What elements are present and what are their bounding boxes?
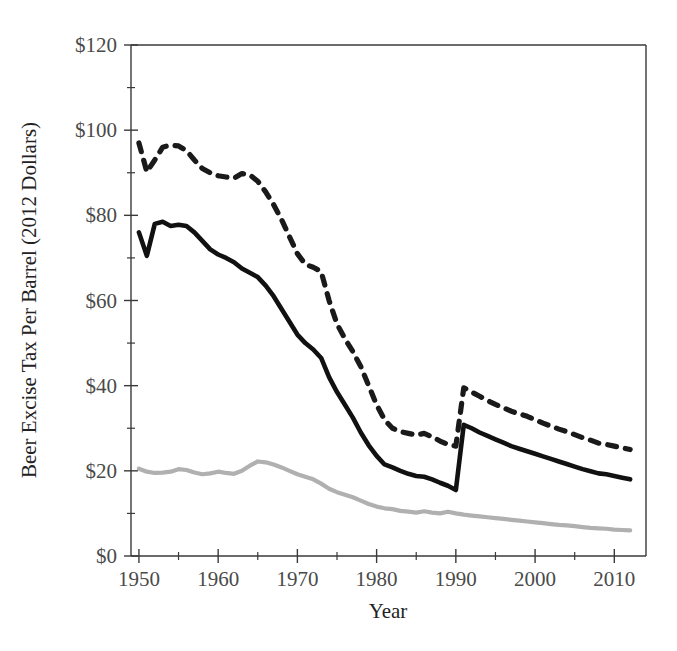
x-axis-title: Year xyxy=(369,599,408,623)
y-axis-title: Beer Excise Tax Per Barrel (2012 Dollars… xyxy=(17,122,41,478)
y-tick-label: $120 xyxy=(75,33,117,57)
chart-page: $0$20$40$60$80$100$120195019601970198019… xyxy=(0,0,677,651)
x-tick-label: 1990 xyxy=(435,567,477,591)
x-tick-label: 2010 xyxy=(593,567,635,591)
y-tick-label: $100 xyxy=(75,118,117,142)
y-tick-label: $0 xyxy=(96,544,117,568)
x-tick-label: 1970 xyxy=(276,567,318,591)
x-tick-label: 1980 xyxy=(356,567,398,591)
y-tick-label: $60 xyxy=(86,289,118,313)
beer-excise-tax-line-chart: $0$20$40$60$80$100$120195019601970198019… xyxy=(0,0,677,651)
x-tick-label: 2000 xyxy=(514,567,556,591)
y-tick-label: $40 xyxy=(86,374,118,398)
x-tick-label: 1950 xyxy=(118,567,160,591)
y-tick-label: $20 xyxy=(86,459,118,483)
y-tick-label: $80 xyxy=(86,203,118,227)
x-tick-label: 1960 xyxy=(197,567,239,591)
